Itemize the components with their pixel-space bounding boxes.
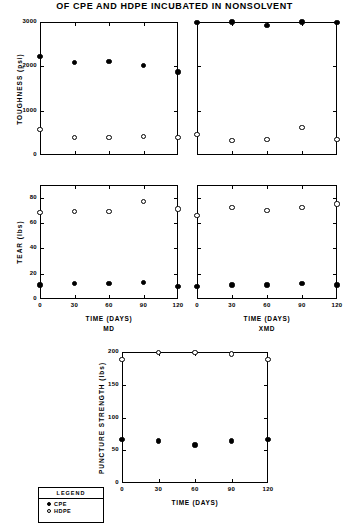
- legend-entry-hdpe: HDPE: [39, 508, 103, 515]
- y-axis-title: PUNCTURE STRENGTH (lbs): [98, 352, 105, 483]
- legend-entry-label: CPE: [54, 501, 67, 507]
- data-point-hdpe: [119, 357, 124, 362]
- data-point-hdpe: [265, 357, 270, 362]
- x-tick-label: 30: [145, 486, 173, 492]
- plot-area-puncture-strength: [122, 352, 268, 483]
- legend-entries: CPEHDPE: [39, 499, 103, 517]
- x-tick: [195, 479, 196, 483]
- x-tick-label: 60: [181, 486, 209, 492]
- data-point-cpe: [192, 442, 197, 447]
- y-tick-right: [264, 418, 268, 419]
- data-point-cpe: [156, 438, 161, 443]
- chart-panel-puncture-strength: 0306090120050100150200TIME (DAYS)PUNCTUR…: [0, 0, 349, 528]
- x-tick: [159, 479, 160, 483]
- x-tick-label: 0: [108, 486, 136, 492]
- data-point-cpe: [265, 437, 270, 442]
- y-tick: [122, 385, 126, 386]
- legend-title: LEGEND: [39, 488, 103, 499]
- legend-entry-cpe: CPE: [39, 501, 103, 508]
- legend: LEGEND CPEHDPE: [38, 487, 104, 523]
- data-point-hdpe: [229, 351, 234, 356]
- y-tick: [122, 450, 126, 451]
- data-point-cpe: [119, 437, 124, 442]
- figure-canvas: OF CPE AND HDPE INCUBATED IN NONSOLVENT …: [0, 0, 349, 528]
- open-circle-icon: [47, 509, 51, 513]
- x-axis-title: TIME (DAYS): [135, 499, 255, 506]
- x-tick-label: 120: [254, 486, 282, 492]
- y-tick-right: [264, 450, 268, 451]
- legend-entry-label: HDPE: [54, 508, 71, 514]
- x-tick-label: 90: [218, 486, 246, 492]
- x-tick: [232, 479, 233, 483]
- data-point-hdpe: [192, 350, 197, 355]
- y-tick-right: [264, 385, 268, 386]
- filled-circle-icon: [47, 502, 51, 506]
- y-tick: [122, 418, 126, 419]
- data-point-cpe: [229, 438, 234, 443]
